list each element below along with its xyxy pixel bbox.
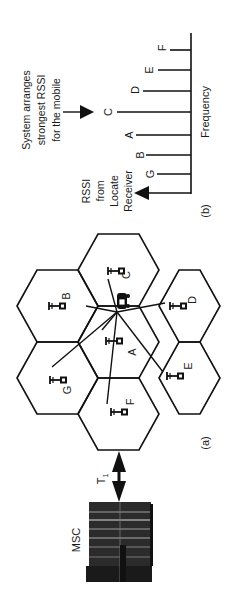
cell-label-e: E <box>182 362 194 369</box>
receiver-arrowhead-icon <box>134 186 149 200</box>
cell-label-d: D <box>186 296 198 304</box>
bar-label-c: C <box>102 108 114 116</box>
msc-building-icon <box>86 502 153 582</box>
bar-label-d: D <box>129 86 141 94</box>
bar-label-b: B <box>134 151 146 158</box>
base-station-d-icon <box>170 302 187 310</box>
cell-label-g: G <box>61 386 73 395</box>
t1-arrow-up-icon <box>112 451 126 472</box>
base-station-b-icon <box>49 302 66 310</box>
panel-b-label: (b) <box>199 204 211 217</box>
base-station-e-icon <box>167 372 184 380</box>
annotation-line-2: strongest RSSI <box>35 75 47 146</box>
annotation-line-1: System arranges <box>20 70 32 149</box>
annotation-line-3: for the mobile <box>50 78 62 142</box>
base-station-f-icon <box>111 408 128 416</box>
cell-d <box>159 270 220 342</box>
cell-e <box>159 342 220 414</box>
rssi-diagram: G B A C D E F Frequency System arranges … <box>0 0 232 604</box>
receiver-label-3: Locate <box>108 175 120 207</box>
bar-label-a: A <box>123 131 135 139</box>
receiver-label-4: Receiver <box>122 170 134 212</box>
msc-link: T1 <box>95 451 126 502</box>
receiver-label-1: RSSI <box>80 179 92 204</box>
bar-label-e: E <box>143 66 155 73</box>
cell-label-a: A <box>126 348 138 356</box>
t1-label: T1 <box>95 474 109 485</box>
t1-arrow-down-icon <box>112 481 126 502</box>
annotation-arrowhead-icon <box>80 105 94 119</box>
cell-label-f: F <box>124 398 136 405</box>
cell-g <box>17 342 98 414</box>
base-station-g-icon <box>50 376 67 384</box>
bar-label-f: F <box>156 44 168 51</box>
bar-label-g: G <box>144 170 156 179</box>
spectrum-panel: G B A C D E F Frequency System arranges … <box>20 33 211 218</box>
msc-label: MSC <box>70 528 82 553</box>
panel-a-label: (a) <box>199 436 211 449</box>
cell-cluster: C B D A G E F (a) <box>17 234 220 450</box>
receiver-label-2: from <box>94 180 106 201</box>
mobile-car-icon <box>117 293 130 309</box>
frequency-label: Frequency <box>199 86 211 138</box>
cell-label-b: B <box>60 292 72 299</box>
cell-f <box>78 378 159 450</box>
cell-label-c: C <box>120 271 132 279</box>
